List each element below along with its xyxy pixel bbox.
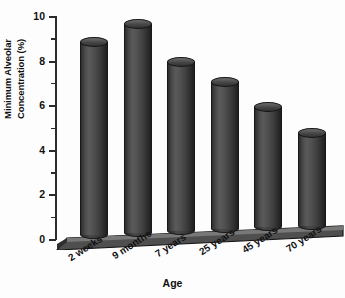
y-tick-major: [49, 194, 56, 196]
x-axis-title: Age: [0, 277, 345, 289]
y-tick-label: 4: [5, 144, 45, 156]
bar-body: [254, 107, 282, 228]
y-tick-minor: [51, 83, 56, 85]
bar: [167, 57, 195, 235]
bar: [124, 19, 152, 237]
bar-top-ellipse: [167, 57, 195, 67]
y-tick-major: [49, 239, 56, 241]
bar-top-ellipse: [80, 37, 108, 47]
bar-top-ellipse: [211, 77, 239, 87]
y-tick-minor: [51, 217, 56, 219]
y-tick-major: [49, 61, 56, 63]
y-tick-major: [49, 16, 56, 18]
bar-body: [211, 82, 239, 229]
bar-body: [124, 24, 152, 233]
bar-body: [167, 62, 195, 231]
y-axis-title-line1: Minimum Alveolar: [2, 14, 15, 144]
y-tick-label: 8: [5, 55, 45, 67]
y-tick-label: 0: [5, 233, 45, 245]
bar: [80, 37, 108, 239]
y-tick-minor: [51, 172, 56, 174]
chart-figure: Minimum Alveolar Concentration (%) 02468…: [0, 0, 345, 298]
y-tick-label: 2: [5, 188, 45, 200]
bar: [211, 77, 239, 233]
bar: [254, 102, 282, 232]
y-axis-title-line2: Concentration (%): [15, 14, 28, 144]
plot-area: 0246810 2 weeks9 months7 years25 years45…: [55, 14, 340, 242]
y-tick-major: [49, 150, 56, 152]
bar-body: [80, 42, 108, 235]
y-tick-minor: [51, 128, 56, 130]
y-tick-minor: [51, 38, 56, 40]
y-tick-label: 6: [5, 99, 45, 111]
x-tick-label: 7 years: [153, 231, 188, 259]
bar: [298, 128, 326, 229]
y-tick-label: 10: [5, 10, 45, 22]
bar-body: [298, 133, 326, 225]
y-tick-major: [49, 105, 56, 107]
y-axis-title: Minimum Alveolar Concentration (%): [2, 14, 36, 144]
bar-top-ellipse: [254, 102, 282, 112]
bar-top-ellipse: [124, 19, 152, 29]
